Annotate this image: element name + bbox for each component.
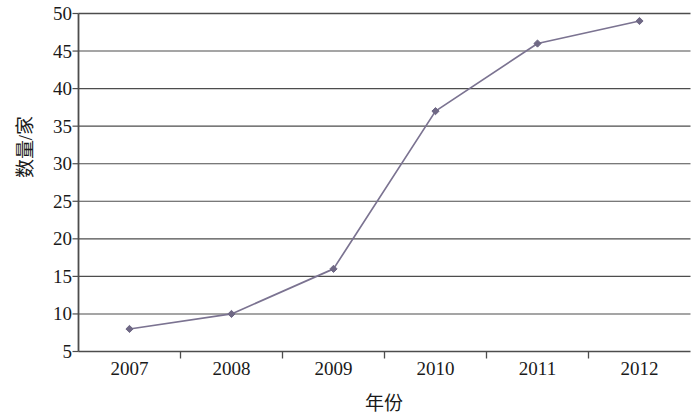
data-point-2012 <box>636 17 643 24</box>
data-line-series-1 <box>130 21 640 329</box>
plot-area <box>0 0 697 416</box>
x-axis-tick-label: 2007 <box>79 358 181 380</box>
data-point-2008 <box>228 310 235 317</box>
x-axis-tick-label: 2011 <box>487 358 589 380</box>
x-axis-tick-label: 2008 <box>181 358 283 380</box>
line-chart: 数量/家 5101520253035404550 200720082009201… <box>0 0 697 416</box>
data-point-2007 <box>126 325 133 332</box>
x-axis-tick-label: 2012 <box>589 358 691 380</box>
x-axis-tick-label: 2010 <box>385 358 487 380</box>
x-axis-tick-label: 2009 <box>283 358 385 380</box>
x-axis-title: 年份 <box>78 388 690 415</box>
